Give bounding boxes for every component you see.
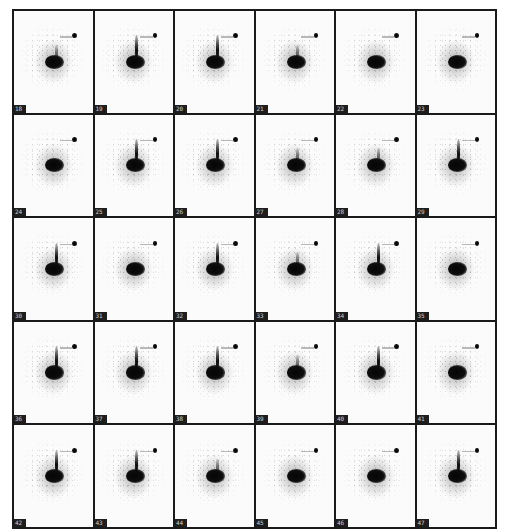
faint-trail <box>221 347 234 349</box>
frame-number-label: 34 <box>336 312 348 320</box>
image-frame: 24 <box>14 115 93 217</box>
uptake-blob <box>126 365 145 379</box>
uptake-blob <box>126 262 145 276</box>
frame-number-label: 18 <box>14 105 26 113</box>
image-frame: 27 <box>256 115 335 217</box>
uptake-blob <box>287 469 306 483</box>
frame-number-label: 30 <box>14 312 26 320</box>
image-frame: 43 <box>95 425 174 527</box>
image-frame: 18 <box>14 11 93 113</box>
frame-number-label: 46 <box>336 519 348 527</box>
faint-trail <box>462 451 475 453</box>
hot-spot <box>233 344 238 349</box>
faint-trail <box>301 451 314 453</box>
uptake-blob <box>448 469 467 483</box>
faint-trail <box>140 36 153 38</box>
hot-spot <box>233 448 238 453</box>
faint-trail <box>221 244 234 246</box>
hot-spot <box>394 241 399 246</box>
image-frame: 35 <box>417 218 496 320</box>
image-frame: 46 <box>336 425 415 527</box>
faint-trail <box>221 36 234 38</box>
uptake-blob <box>287 55 306 69</box>
uptake-blob <box>367 365 386 379</box>
hot-spot <box>233 241 238 246</box>
hot-spot <box>394 344 399 349</box>
uptake-blob <box>126 469 145 483</box>
image-frame: 28 <box>336 115 415 217</box>
hot-spot <box>72 137 77 142</box>
uptake-blob <box>367 55 386 69</box>
image-frame: 23 <box>417 11 496 113</box>
faint-trail <box>382 451 395 453</box>
frame-number-label: 31 <box>95 312 107 320</box>
faint-trail <box>140 451 153 453</box>
frame-number-label: 21 <box>256 105 268 113</box>
faint-trail <box>301 36 314 38</box>
frame-number-label: 19 <box>95 105 107 113</box>
frame-number-label: 44 <box>175 519 187 527</box>
frame-number-label: 25 <box>95 208 107 216</box>
hot-spot <box>233 137 238 142</box>
frame-number-label: 35 <box>417 312 429 320</box>
faint-trail <box>140 347 153 349</box>
uptake-blob <box>448 365 467 379</box>
uptake-blob <box>45 365 64 379</box>
faint-trail <box>382 140 395 142</box>
image-frame: 30 <box>14 218 93 320</box>
faint-trail <box>60 451 73 453</box>
image-frame: 20 <box>175 11 254 113</box>
hot-spot <box>394 448 399 453</box>
image-frame: 32 <box>175 218 254 320</box>
uptake-blob <box>206 55 225 69</box>
faint-trail <box>462 36 475 38</box>
faint-trail <box>60 140 73 142</box>
faint-trail <box>60 244 73 246</box>
hot-spot <box>314 448 319 453</box>
frame-number-label: 37 <box>95 415 107 423</box>
frame-number-label: 32 <box>175 312 187 320</box>
frame-number-label: 43 <box>95 519 107 527</box>
frame-number-label: 28 <box>336 208 348 216</box>
image-frame: 21 <box>256 11 335 113</box>
hot-spot <box>314 241 319 246</box>
uptake-blob <box>448 262 467 276</box>
image-frame: 44 <box>175 425 254 527</box>
uptake-blob <box>45 55 64 69</box>
image-frame: 33 <box>256 218 335 320</box>
image-frame: 22 <box>336 11 415 113</box>
frame-number-label: 36 <box>14 415 26 423</box>
image-frame: 29 <box>417 115 496 217</box>
image-frame: 45 <box>256 425 335 527</box>
frame-number-label: 23 <box>417 105 429 113</box>
frame-number-label: 40 <box>336 415 348 423</box>
frame-number-label: 26 <box>175 208 187 216</box>
faint-trail <box>60 347 73 349</box>
faint-trail <box>382 244 395 246</box>
hot-spot <box>72 448 77 453</box>
image-frame: 40 <box>336 322 415 424</box>
frame-number-label: 33 <box>256 312 268 320</box>
image-frame: 26 <box>175 115 254 217</box>
image-frame: 25 <box>95 115 174 217</box>
faint-trail <box>140 244 153 246</box>
image-frame: 34 <box>336 218 415 320</box>
faint-trail <box>301 244 314 246</box>
hot-spot <box>72 344 77 349</box>
frame-number-label: 39 <box>256 415 268 423</box>
faint-trail <box>140 140 153 142</box>
frame-number-label: 20 <box>175 105 187 113</box>
image-frame: 41 <box>417 322 496 424</box>
frame-number-label: 47 <box>417 519 429 527</box>
image-frame: 47 <box>417 425 496 527</box>
faint-trail <box>60 36 73 38</box>
faint-trail <box>382 36 395 38</box>
hot-spot <box>72 241 77 246</box>
frame-grid: 1819202122232425262728293031323334353637… <box>12 9 497 529</box>
uptake-blob <box>287 262 306 276</box>
frame-number-label: 22 <box>336 105 348 113</box>
image-frame: 42 <box>14 425 93 527</box>
faint-trail <box>221 140 234 142</box>
uptake-blob <box>287 365 306 379</box>
image-frame: 39 <box>256 322 335 424</box>
